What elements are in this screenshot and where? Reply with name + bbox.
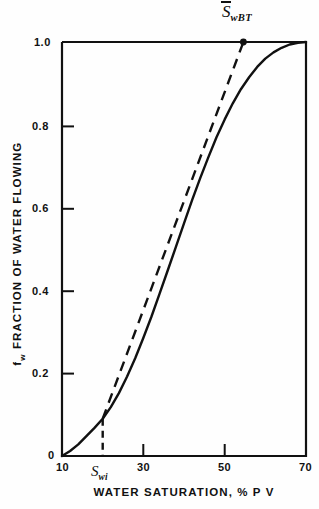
swbt-annotation: SwBT [222,2,252,23]
fw-symbol: f [11,361,23,366]
plot-canvas [0,0,319,509]
swbt-symbol: S [222,2,231,22]
x-axis-title: WATER SATURATION, % P V [62,486,306,498]
breakthrough-point-marker [240,39,247,46]
xtick-label-70: 70 [299,461,312,473]
ytick-label-0.4: 0.4 [32,285,49,297]
ytick-label-0: 0 [48,449,55,461]
ytick-label-1.0: 1.0 [34,36,51,48]
y-axis-title-rest: FRACTION OF WATER FLOWING [11,142,23,349]
fw-subscript: w [18,353,27,360]
y-axis-title: fw FRACTION OF WATER FLOWING [11,129,26,379]
xtick-label-30: 30 [137,461,150,473]
ytick-label-0.2: 0.2 [32,367,49,379]
axes-frame [62,42,306,456]
swi-symbol: S [91,463,99,479]
ytick-label-0.6: 0.6 [32,202,49,214]
xtick-label-10: 10 [56,461,69,473]
tangent-dashed-line [103,42,244,419]
xtick-label-50: 50 [218,461,231,473]
swi-subscript: wi [99,472,108,482]
swbt-subscript: wBT [231,12,252,23]
x-axis-ticks [143,444,224,456]
ytick-label-0.8: 0.8 [32,120,49,132]
y-axis-ticks [62,126,74,373]
swi-annotation: Swi [91,462,108,482]
fractional-flow-chart: 1.0 0.8 0.6 0.4 0.2 0 10 30 50 70 fw FRA… [0,0,319,509]
fractional-flow-curve [62,42,306,456]
